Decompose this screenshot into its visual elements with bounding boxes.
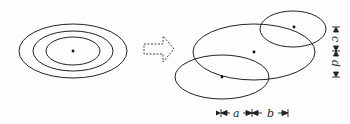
horizontal-dimensions [221, 109, 288, 117]
concentric-ellipses [19, 24, 127, 78]
upper-right-dot [293, 26, 296, 29]
lower-left-dot [221, 76, 224, 79]
dimension-label-d: d [329, 60, 342, 67]
center-ellipse-dot [253, 51, 256, 54]
transform-arrow-icon [144, 36, 174, 62]
overlapping-ellipses [175, 11, 326, 99]
vertical-dimensions [332, 27, 340, 77]
center-dot [72, 50, 75, 53]
dimension-label-a: a [233, 107, 240, 120]
dimension-label-c: c [329, 36, 342, 42]
upper-right-ellipse [260, 11, 326, 47]
diagram-canvas: a b c d [0, 0, 350, 124]
diagram-svg: a b c d [0, 0, 350, 124]
dimension-label-b: b [267, 107, 274, 120]
